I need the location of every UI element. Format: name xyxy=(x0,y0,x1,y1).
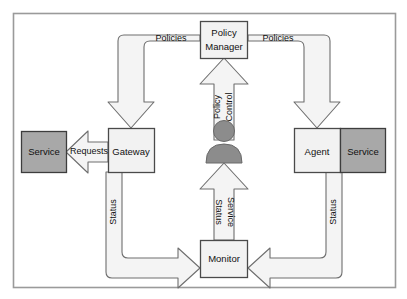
edge-label-policy-control-line1: Policy xyxy=(212,95,222,120)
node-label-gateway: Gateway xyxy=(112,146,150,157)
node-monitor[interactable]: Monitor xyxy=(201,241,248,278)
node-service-right[interactable]: Service xyxy=(341,129,386,173)
node-label-agent: Agent xyxy=(305,146,330,157)
diagram-page: Policies Policies Policy Control Service… xyxy=(0,0,407,299)
node-agent[interactable]: Agent xyxy=(295,129,341,173)
edge-label-requests: Requests xyxy=(70,146,109,156)
edge-label-policy-control-line2: Control xyxy=(224,92,234,121)
edge-label-service-status-line1: Service xyxy=(226,197,236,227)
architecture-diagram: Policies Policies Policy Control Service… xyxy=(0,0,407,299)
edge-label-policies-left: Policies xyxy=(155,33,187,43)
node-label-policy-manager-line1: Policy xyxy=(211,27,237,38)
node-label-monitor: Monitor xyxy=(208,253,240,264)
edge-label-service-status-line2: Status xyxy=(214,199,224,225)
edge-label-policies-right: Policies xyxy=(262,33,294,43)
node-label-service-left: Service xyxy=(28,146,60,157)
edge-label-status-right: Status xyxy=(328,199,338,225)
node-policy-manager[interactable]: Policy Manager xyxy=(201,22,248,59)
node-service-left[interactable]: Service xyxy=(22,132,67,173)
node-gateway[interactable]: Gateway xyxy=(109,129,155,173)
node-label-service-right: Service xyxy=(347,146,379,157)
node-label-policy-manager-line2: Manager xyxy=(205,41,243,52)
person-head-icon xyxy=(214,121,235,142)
edge-label-status-left: Status xyxy=(108,199,118,225)
